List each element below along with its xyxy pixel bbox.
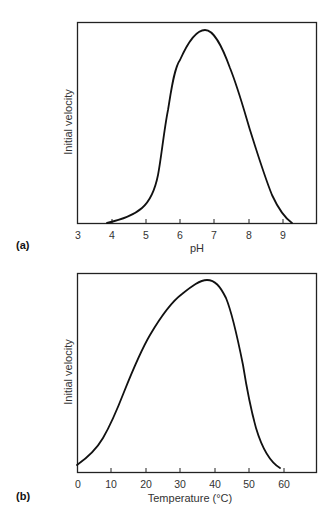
tick-label: 50 [243,478,255,490]
x-axis-label-b: Temperature (°C) [148,492,232,504]
tick-label: 5 [143,229,149,241]
panel-label-b: (b) [16,490,30,502]
x-tick-labels-a: 3 4 5 6 7 8 9 [75,229,286,241]
x-tick-labels-b: 0 10 20 30 40 50 60 [75,478,290,490]
chart-panel-a: 3 4 5 6 7 8 9 pH Initial velocity (a) [16,23,317,255]
tick-label: 40 [209,478,221,490]
temperature-velocity-curve [77,280,280,468]
figure: 3 4 5 6 7 8 9 pH Initial velocity (a) 0 … [0,0,329,513]
tick-label: 60 [278,478,290,490]
tick-label: 10 [105,478,117,490]
panel-label-a: (a) [16,239,30,251]
x-ticks-a [112,219,283,223]
tick-label: 8 [246,229,252,241]
plot-frame-a [78,23,317,224]
tick-label: 30 [174,478,186,490]
tick-label: 6 [177,229,183,241]
y-axis-label-a: Initial velocity [62,89,74,155]
tick-label: 7 [211,229,217,241]
x-axis-label-a: pH [190,242,204,254]
tick-label: 9 [280,229,286,241]
tick-label: 3 [75,229,81,241]
tick-label: 4 [109,229,115,241]
chart-panel-b: 0 10 20 30 40 50 60 Temperature (°C) Ini… [16,274,317,505]
y-axis-label-b: Initial velocity [62,339,74,405]
plot-frame-b [78,274,317,473]
tick-label: 0 [75,478,81,490]
ph-velocity-curve [107,30,292,223]
tick-label: 20 [140,478,152,490]
x-ticks-b [111,468,284,472]
